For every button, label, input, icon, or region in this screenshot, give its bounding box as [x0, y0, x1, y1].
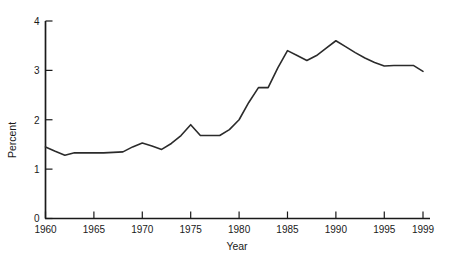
x-axis-tick-label: 1975	[180, 224, 203, 235]
y-axis-tick-label: 1	[34, 164, 40, 175]
y-axis-tick-label: 2	[34, 115, 40, 126]
line-chart: 01234 1960196519701975198019851990199519…	[0, 0, 451, 263]
x-axis-tick-label: 1990	[325, 224, 348, 235]
x-axis-tick-label: 1985	[276, 224, 299, 235]
y-axis-title: Percent	[6, 122, 18, 158]
x-axis-tick-label: 1980	[228, 224, 251, 235]
x-axis-tick-label: 1960	[34, 224, 57, 235]
x-axis-title: Year	[226, 240, 248, 252]
chart-canvas: 01234 1960196519701975198019851990199519…	[0, 0, 451, 263]
y-axis-tick-label: 4	[34, 16, 40, 27]
x-axis-tick-label: 1965	[83, 224, 106, 235]
x-axis-tick-labels: 196019651970197519801985199019951999	[34, 224, 434, 235]
x-axis-tick-label: 1970	[131, 224, 154, 235]
x-axis-tick-label: 1999	[412, 224, 435, 235]
y-axis-tick-label: 3	[34, 65, 40, 76]
x-axis-tick-label: 1995	[373, 224, 396, 235]
